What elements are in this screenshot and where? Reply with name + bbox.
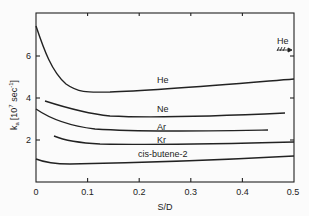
x-tick-label: 0: [33, 187, 38, 197]
hatched-arrow-icon: [277, 47, 292, 52]
y-tick-label: 4: [26, 93, 31, 103]
label-kr: Kr: [157, 135, 166, 145]
x-axis-label: S/D: [157, 202, 173, 212]
label-ne: Ne: [157, 104, 169, 114]
label-cis-butene-2: cis-butene-2: [138, 149, 188, 159]
y-tick-label: 2: [26, 135, 31, 145]
x-tick-label: 0.3: [185, 187, 198, 197]
curve-ar: [36, 109, 268, 131]
label-he: He: [157, 75, 169, 85]
x-tick-label: 0.4: [236, 187, 249, 197]
x-tick-label: 0.5: [287, 187, 300, 197]
x-tick-label: 0.2: [133, 187, 146, 197]
y-tick-label: 6: [26, 51, 31, 61]
svg-text:ka[107 sec-1]: ka[107 sec-1]: [8, 80, 20, 130]
chart: 0 0.1 0.2 0.3 0.4 0.5 2 4 6 He Ne Ar Kr …: [0, 0, 309, 216]
y-axis-label: ka[107 sec-1]: [8, 80, 20, 130]
label-ar: Ar: [157, 122, 166, 132]
x-tick-label: 0.1: [81, 187, 94, 197]
label-he-arrow: He: [277, 36, 289, 46]
curve-kr: [54, 136, 294, 144]
